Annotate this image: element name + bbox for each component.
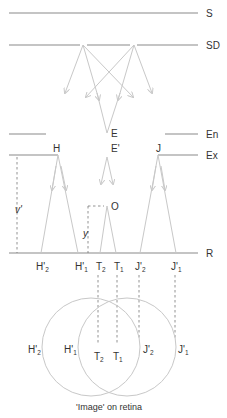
diagram-canvas: S SD En Ex R E E' H J — [0, 0, 227, 418]
svg-text:H'1: H'1 — [64, 344, 77, 356]
retina-circle-left — [42, 298, 140, 396]
svg-text:T2: T2 — [94, 351, 104, 363]
point-label-o: O — [111, 201, 119, 212]
label-y: y — [82, 228, 89, 239]
point-label-h: H — [53, 143, 60, 154]
svg-text:T1: T1 — [113, 351, 123, 363]
retina-circle-right — [78, 298, 176, 396]
level-label-sd: SD — [206, 40, 220, 51]
svg-text:J'1: J'1 — [178, 344, 189, 356]
j-triangle — [140, 155, 176, 253]
svg-text:T2: T2 — [96, 261, 106, 273]
retina-drop-lines — [98, 275, 175, 345]
caption: 'Image' on retina — [76, 402, 142, 412]
point-label-e-prime: E' — [111, 143, 120, 154]
svg-text:T1: T1 — [114, 261, 124, 273]
e-prime-rays — [101, 157, 113, 184]
svg-text:H'2: H'2 — [36, 261, 49, 273]
point-label-j: J — [156, 143, 161, 154]
svg-text:J'2: J'2 — [135, 261, 146, 273]
label-v-prime: v' — [15, 204, 23, 215]
svg-text:H'2: H'2 — [28, 344, 41, 356]
level-label-ex: Ex — [206, 150, 218, 161]
point-label-e: E — [111, 128, 118, 139]
level-label-r: R — [206, 248, 213, 259]
o-triangle — [100, 206, 116, 253]
svg-text:J'2: J'2 — [143, 344, 154, 356]
h-triangle — [41, 155, 78, 253]
sd-rays — [65, 45, 152, 133]
svg-text:H'1: H'1 — [75, 261, 88, 273]
retina-labels: H'2 H'1 T2 T1 J'2 J'1 — [28, 344, 189, 363]
projection-labels: H'2 H'1 T2 T1 J'2 J'1 — [36, 261, 182, 273]
svg-text:J'1: J'1 — [171, 261, 182, 273]
level-label-en: En — [206, 129, 218, 140]
level-label-s: S — [206, 8, 213, 19]
